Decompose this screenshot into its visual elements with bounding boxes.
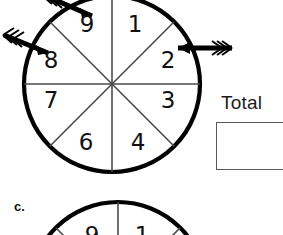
sector-label-1: 1 xyxy=(124,13,146,36)
worksheet-page: 1 2 3 4 6 7 8 9 Total c. 9 1 xyxy=(0,0,283,235)
sector-label-9: 9 xyxy=(76,13,98,36)
sector-label-2: 2 xyxy=(157,49,179,72)
sector-label-4: 4 xyxy=(127,131,149,154)
next-spinner-partial xyxy=(30,202,206,235)
sector-label-7: 7 xyxy=(40,89,62,112)
sector-label-6: 6 xyxy=(75,131,97,154)
total-label: Total xyxy=(221,92,262,114)
next-sector-label-1: 1 xyxy=(131,224,153,235)
total-answer-box[interactable] xyxy=(216,122,283,170)
sector-label-8: 8 xyxy=(40,49,62,72)
item-letter-c: c. xyxy=(14,199,25,214)
sector-label-3: 3 xyxy=(157,89,179,112)
next-sector-label-9: 9 xyxy=(81,224,103,235)
